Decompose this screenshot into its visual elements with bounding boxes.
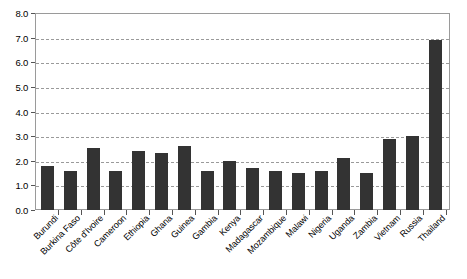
bar xyxy=(178,146,191,210)
bar xyxy=(246,168,259,210)
bar xyxy=(315,171,328,210)
bar xyxy=(292,173,305,210)
bar xyxy=(223,161,236,210)
y-tick-mark xyxy=(31,210,35,211)
y-tick-label: 3.0 xyxy=(15,131,28,142)
y-tick-label: 6.0 xyxy=(15,57,28,68)
y-axis: 0.01.02.03.04.05.06.07.08.0 xyxy=(0,0,35,215)
bar xyxy=(41,166,54,210)
bars-layer xyxy=(36,13,450,210)
bar xyxy=(337,158,350,210)
y-tick-mark xyxy=(31,161,35,162)
bar xyxy=(269,171,282,210)
x-axis: BurundiBurkina FasoCôte d'IvoireCameroon… xyxy=(0,213,467,279)
bar xyxy=(201,171,214,210)
y-tick-label: 7.0 xyxy=(15,32,28,43)
bar xyxy=(406,136,419,210)
x-tick-label: Ghana xyxy=(148,213,174,239)
y-tick-label: 8.0 xyxy=(15,8,28,19)
bar xyxy=(383,139,396,210)
bar xyxy=(64,171,77,210)
bar xyxy=(87,148,100,210)
x-tick-label: Malawi xyxy=(284,213,310,239)
bar xyxy=(155,153,168,210)
y-tick-mark xyxy=(31,62,35,63)
bar xyxy=(132,151,145,210)
y-tick-label: 4.0 xyxy=(15,106,28,117)
y-tick-mark xyxy=(31,112,35,113)
y-tick-mark xyxy=(31,13,35,14)
bar xyxy=(429,40,442,210)
bar xyxy=(109,171,122,210)
y-tick-mark xyxy=(31,87,35,88)
y-tick-label: 1.0 xyxy=(15,180,28,191)
y-tick-label: 5.0 xyxy=(15,81,28,92)
y-tick-mark xyxy=(31,38,35,39)
x-tick-label: Gambia xyxy=(190,213,219,242)
y-tick-mark xyxy=(31,136,35,137)
bar xyxy=(360,173,373,210)
bar-chart: 0.01.02.03.04.05.06.07.08.0 BurundiBurki… xyxy=(0,0,467,279)
y-tick-label: 2.0 xyxy=(15,155,28,166)
y-tick-mark xyxy=(31,185,35,186)
